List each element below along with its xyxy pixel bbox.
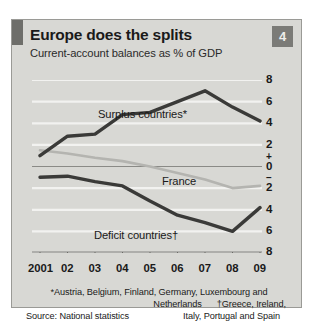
x-axis-labels: 2001 02 03 04 05 06 07 08 09 (28, 263, 272, 279)
y-tick-6p: 6 (266, 96, 272, 108)
chart-subtitle: Current-account balances as % of GDP (30, 47, 222, 59)
y-tick-6m: 6 (266, 225, 272, 237)
x-tick-03: 03 (89, 263, 102, 274)
y-tick-4p: 4 (266, 117, 272, 129)
series-label-france: France (162, 175, 196, 187)
x-tick-08: 08 (226, 263, 239, 274)
footnote-asterisk-line2: Netherlands (153, 299, 201, 309)
y-tick-8m: 8 (266, 246, 272, 258)
x-tick-04: 04 (116, 263, 129, 274)
x-tick-06: 06 (171, 263, 184, 274)
footnote-dagger-line1: †Greece, Ireland, (217, 299, 286, 309)
y-tick-4m: 4 (266, 204, 272, 216)
footnote-asterisk-line1: *Austria, Belgium, Finland, Germany, Lux… (26, 287, 292, 299)
series-deficit (40, 176, 260, 231)
source-label: Source: National statistics (26, 311, 129, 323)
series-label-deficit: Deficit countries† (94, 229, 178, 241)
series-france (40, 150, 260, 188)
chart-panel: 4 Europe does the splits Current-account… (11, 19, 302, 308)
chart-number-badge: 4 (272, 26, 293, 47)
plot-area (32, 80, 262, 253)
chart-title: Europe does the splits (30, 26, 192, 44)
x-tick-05: 05 (144, 263, 157, 274)
series-label-surplus: Surplus countries* (98, 108, 187, 120)
x-tick-2001: 2001 (28, 263, 53, 274)
y-tick-0: 0 (266, 161, 272, 173)
chart-svg (32, 80, 262, 253)
x-tick-02: 02 (61, 263, 74, 274)
y-tick-8p: 8 (266, 74, 272, 86)
y-tick-2p: 2 (266, 139, 272, 151)
y-axis-labels: 8 6 4 2 + 0 – 2 4 6 8 (266, 74, 296, 264)
footnotes: *Austria, Belgium, Finland, Germany, Lux… (26, 287, 292, 322)
x-tick-07: 07 (199, 263, 212, 274)
chart-screenshot: 4 Europe does the splits Current-account… (0, 0, 315, 329)
x-tick-09: 09 (254, 263, 267, 274)
footnote-dagger-line2: Italy, Portugal and Spain (183, 311, 292, 323)
accent-square (12, 20, 23, 45)
y-tick-2m: 2 (266, 182, 272, 194)
